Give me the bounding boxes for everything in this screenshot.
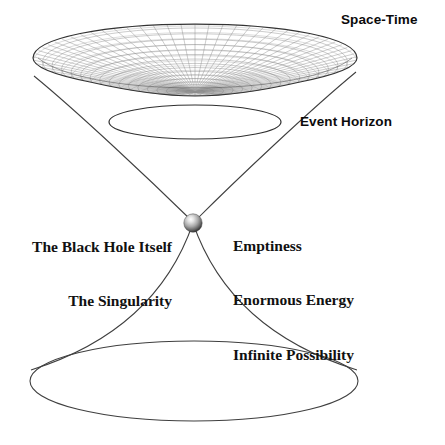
upper-cone-left-edge bbox=[34, 76, 191, 220]
event-horizon-ellipse bbox=[109, 105, 281, 139]
label-black-hole-itself: The Black Hole Itself bbox=[14, 238, 172, 256]
label-emptiness: Emptiness bbox=[233, 237, 354, 255]
label-the-singularity: The Singularity bbox=[14, 292, 172, 310]
label-space-time: Space-Time bbox=[341, 12, 418, 28]
mesh-ring-under bbox=[185, 98, 204, 102]
space-time-disk bbox=[33, 22, 357, 109]
label-infinite-possibility: Infinite Possibility bbox=[233, 346, 354, 364]
label-black-hole-group: The Black Hole Itself The Singularity bbox=[14, 201, 172, 347]
diagram-canvas: Space-Time Event Horizon The Black Hole … bbox=[0, 0, 445, 445]
label-event-horizon: Event Horizon bbox=[300, 114, 392, 130]
singularity-sphere bbox=[184, 214, 202, 232]
singularity-ball bbox=[184, 214, 202, 232]
label-properties-group: Emptiness Enormous Energy Infinite Possi… bbox=[233, 200, 354, 401]
label-enormous-energy: Enormous Energy bbox=[233, 291, 354, 309]
